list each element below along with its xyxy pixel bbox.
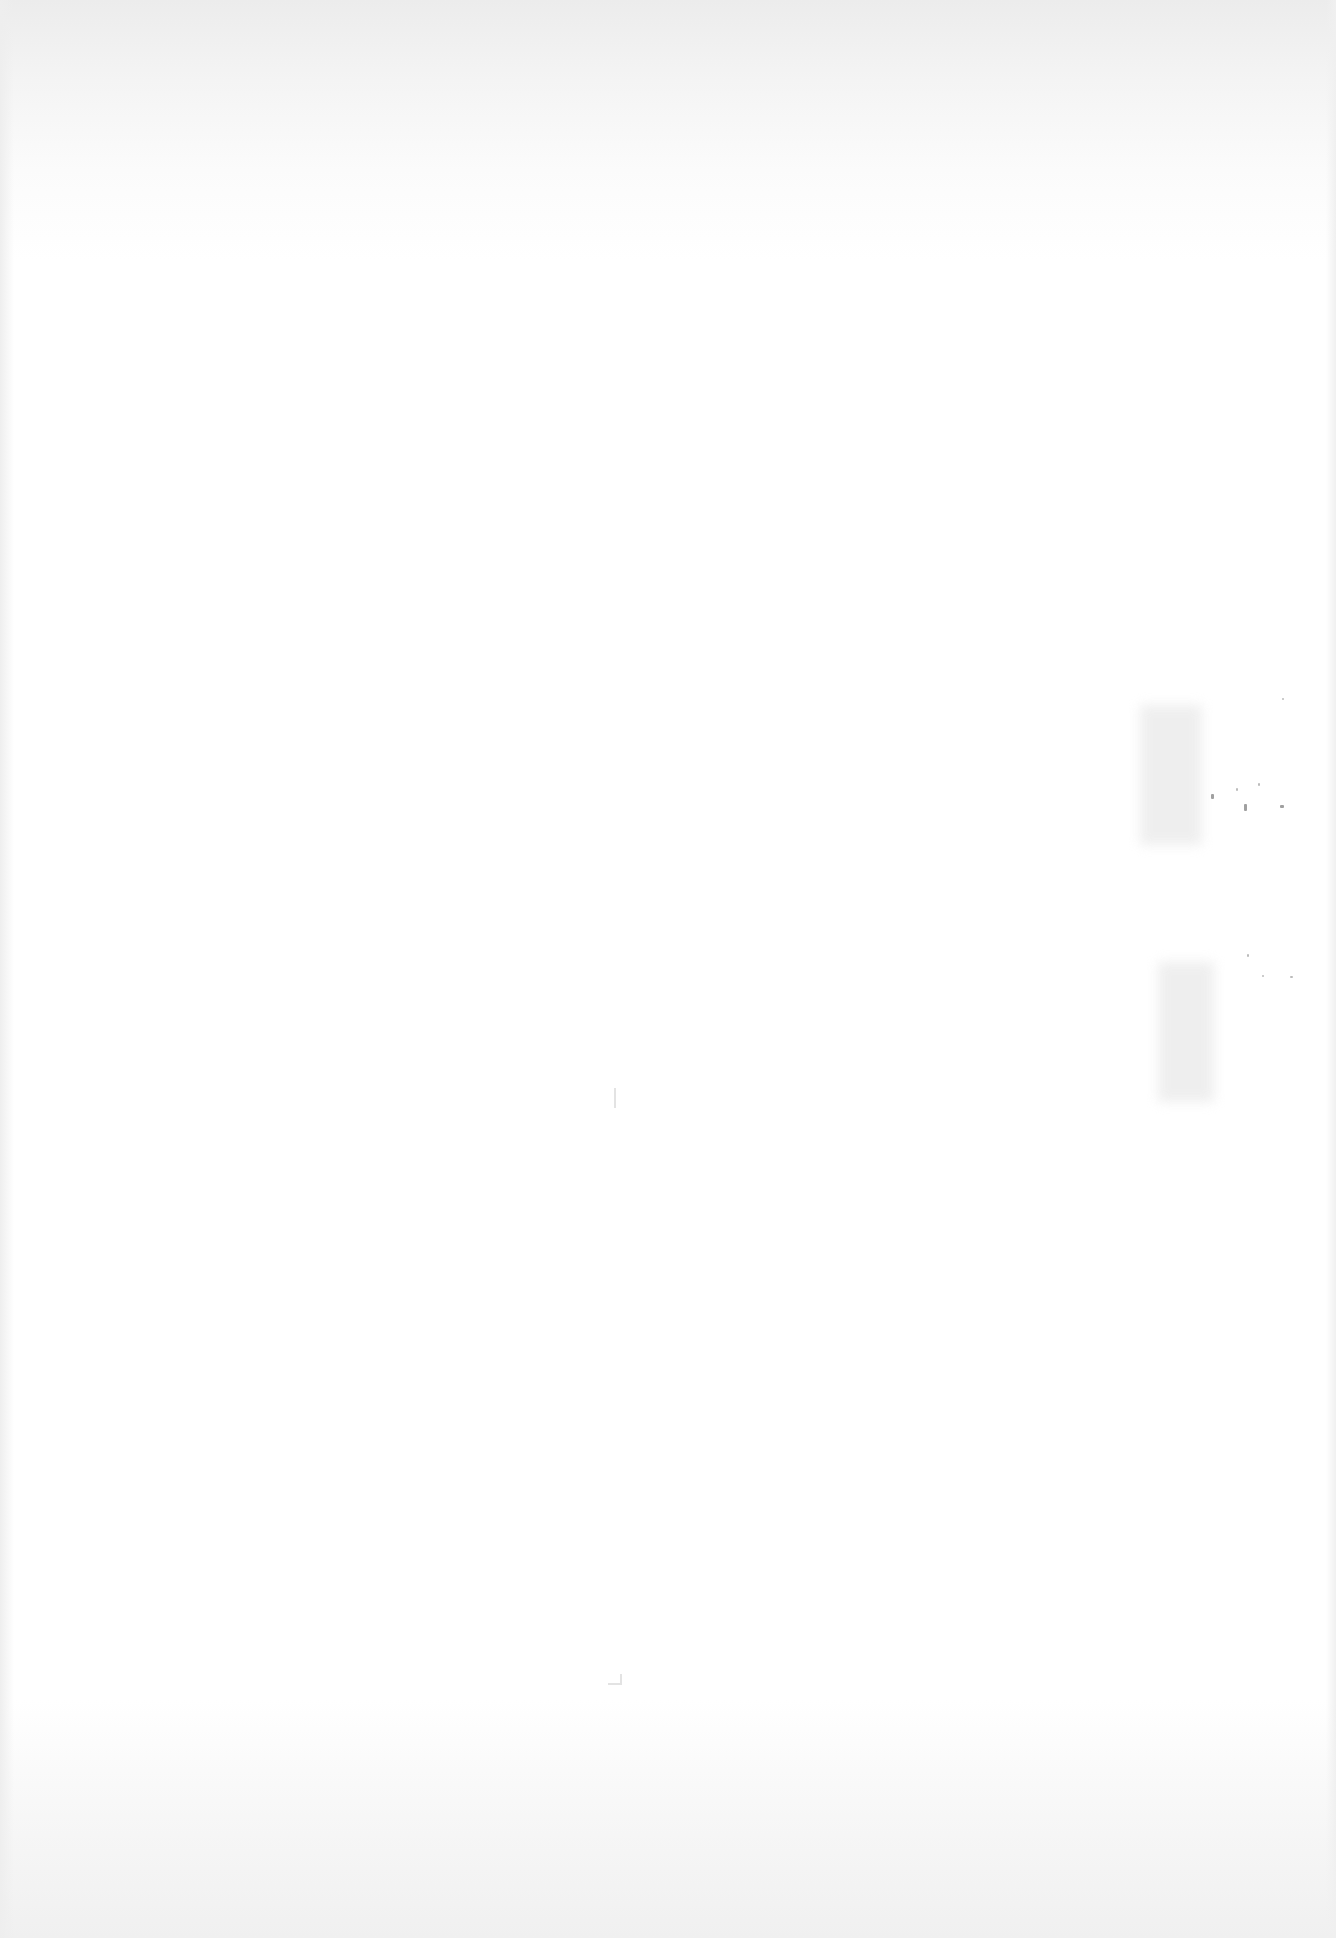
scan-speckle	[1258, 783, 1260, 786]
scan-speckle	[1247, 954, 1249, 957]
bleed-through-smudge	[1140, 705, 1202, 845]
scan-speckle	[1280, 805, 1284, 808]
scan-edge-shadow-right	[1326, 0, 1336, 1938]
faint-scan-mark	[620, 1674, 622, 1685]
faint-scan-mark	[614, 1088, 616, 1108]
scan-speckle	[1236, 788, 1238, 791]
scan-speckle	[1244, 804, 1247, 811]
blank-scanned-page	[0, 0, 1336, 1938]
scan-speckle	[1262, 975, 1264, 977]
scan-speckle	[1290, 976, 1293, 978]
scan-edge-shadow-left	[0, 0, 14, 1938]
scan-speckle	[1211, 794, 1214, 799]
bleed-through-smudge	[1158, 962, 1214, 1102]
scan-speckle	[1282, 698, 1284, 700]
